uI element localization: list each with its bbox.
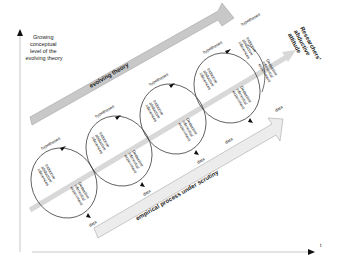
- svg-text:Inductiveabductiveinferences: Inductiveabductiveinferences: [237, 36, 259, 60]
- svg-text:Inductiveabductiveinferences: Inductiveabductiveinferences: [198, 67, 220, 91]
- svg-text:data: data: [274, 104, 284, 113]
- svg-text:Inductiveabductiveinferences: Inductiveabductiveinferences: [90, 131, 112, 155]
- abductive-attitude-label: Researchers' abductive attitude: [287, 26, 323, 70]
- x-axis-label: t: [320, 242, 322, 248]
- x-axis: [32, 249, 315, 255]
- evolving-theory-label: evolving theory: [88, 61, 130, 89]
- svg-text:hypotheses: hypotheses: [202, 40, 223, 55]
- y-axis-label: Growing conceptual level of the evolving…: [26, 34, 63, 61]
- diagram-canvas: Growing conceptual level of the evolving…: [0, 0, 347, 264]
- svg-text:hypotheses: hypotheses: [240, 12, 261, 27]
- svg-text:hypotheses: hypotheses: [94, 104, 115, 119]
- svg-text:hypotheses: hypotheses: [40, 136, 61, 151]
- svg-text:Inductiveabductiveinferences: Inductiveabductiveinferences: [36, 163, 58, 187]
- y-axis: [17, 29, 23, 252]
- svg-text:data: data: [224, 136, 234, 145]
- svg-text:hypotheses: hypotheses: [148, 72, 169, 87]
- svg-text:Inductiveabductiveinferences: Inductiveabductiveinferences: [144, 99, 166, 123]
